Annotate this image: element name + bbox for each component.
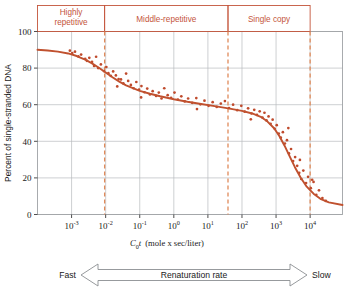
data-point	[267, 115, 270, 118]
data-point	[80, 53, 83, 56]
data-point	[105, 66, 108, 69]
category-label-single-copy: Single copy	[248, 15, 291, 24]
data-point	[120, 78, 123, 81]
y-axis-title: Percent of single-stranded DNA	[3, 64, 13, 182]
data-point	[146, 87, 149, 90]
data-point	[253, 108, 256, 111]
x-tick-label: 101	[202, 219, 214, 231]
renaturation-curve	[38, 50, 343, 205]
data-point	[140, 96, 143, 99]
y-axis-ticks: 020406080100	[18, 27, 38, 220]
data-point	[219, 102, 222, 105]
data-point	[163, 87, 166, 90]
category-label-highly-repetitive-line2: repetitive	[54, 18, 88, 27]
x-axis-title: C0t(mole x sec/liter)	[130, 238, 204, 250]
data-point	[135, 81, 138, 84]
category-label-highly-repetitive: Highly	[60, 8, 84, 17]
data-point	[173, 91, 176, 94]
arrow-label-fast: Fast	[59, 270, 76, 280]
x-tick-label: 104	[304, 219, 316, 231]
data-point	[249, 118, 252, 121]
data-point	[100, 63, 103, 66]
data-point	[307, 175, 310, 178]
renaturation-rate-arrow: FastRenaturation rateSlow	[59, 264, 331, 286]
data-point	[294, 156, 297, 159]
data-point	[287, 127, 290, 130]
data-point	[258, 110, 261, 113]
data-point	[157, 91, 160, 94]
data-point	[116, 85, 119, 88]
data-point	[196, 108, 199, 111]
data-point	[282, 131, 285, 134]
y-tick-label: 40	[23, 137, 33, 147]
x-tick-label: 10-3	[65, 219, 79, 231]
data-point	[240, 104, 243, 107]
y-axis-title: Percent of single-stranded DNA	[3, 64, 13, 182]
x-tick-label: 10-2	[99, 219, 113, 231]
data-point	[302, 169, 305, 172]
data-point	[224, 100, 227, 103]
x-axis-ticks: 10-310-210-1100101102103104	[65, 215, 317, 231]
y-tick-label: 80	[23, 63, 33, 73]
y-tick-label: 60	[23, 100, 33, 110]
y-tick-label: 0	[27, 210, 32, 220]
data-point	[127, 80, 130, 83]
data-point	[271, 118, 274, 121]
data-point	[290, 148, 293, 151]
data-point	[263, 111, 266, 114]
data-point	[232, 103, 235, 106]
data-point	[318, 189, 321, 192]
data-point	[296, 164, 299, 167]
category-dashed-dividers	[105, 32, 310, 215]
data-point	[130, 84, 133, 87]
data-point	[112, 70, 115, 73]
y-tick-label: 100	[18, 27, 32, 37]
x-tick-label: 100	[168, 219, 180, 231]
category-labels: HighlyrepetitiveMiddle-repetitiveSingle …	[54, 8, 291, 27]
data-point	[180, 95, 183, 98]
x-tick-label: 103	[270, 219, 282, 231]
data-point	[247, 107, 250, 110]
arrow-label-slow: Slow	[312, 270, 331, 280]
data-point	[115, 74, 118, 77]
category-label-middle-repetitive: Middle-repetitive	[136, 15, 197, 24]
x-tick-label: 102	[236, 219, 248, 231]
data-points	[69, 49, 328, 202]
data-point	[311, 178, 314, 181]
renaturation-chart: HighlyrepetitiveMiddle-repetitiveSingle …	[0, 0, 353, 295]
data-point	[187, 97, 190, 100]
data-point	[286, 139, 289, 142]
data-point	[211, 101, 214, 104]
data-point	[195, 97, 198, 100]
arrow-label-center: Renaturation rate	[161, 270, 228, 280]
data-point	[140, 85, 143, 88]
x-axis-title: C0t(mole x sec/liter)	[130, 238, 204, 250]
data-point	[275, 124, 278, 127]
y-tick-label: 20	[23, 173, 33, 183]
data-point	[166, 94, 169, 97]
data-point	[88, 57, 91, 60]
cot-curve-figure: HighlyrepetitiveMiddle-repetitiveSingle …	[0, 0, 353, 295]
data-point	[95, 55, 98, 58]
x-tick-label: 10-1	[133, 219, 147, 231]
data-point	[299, 159, 302, 162]
data-point	[151, 90, 154, 93]
data-point	[74, 50, 77, 53]
data-point	[125, 72, 128, 75]
fit-curve	[38, 50, 343, 205]
data-point	[69, 49, 72, 52]
data-point	[203, 99, 206, 102]
